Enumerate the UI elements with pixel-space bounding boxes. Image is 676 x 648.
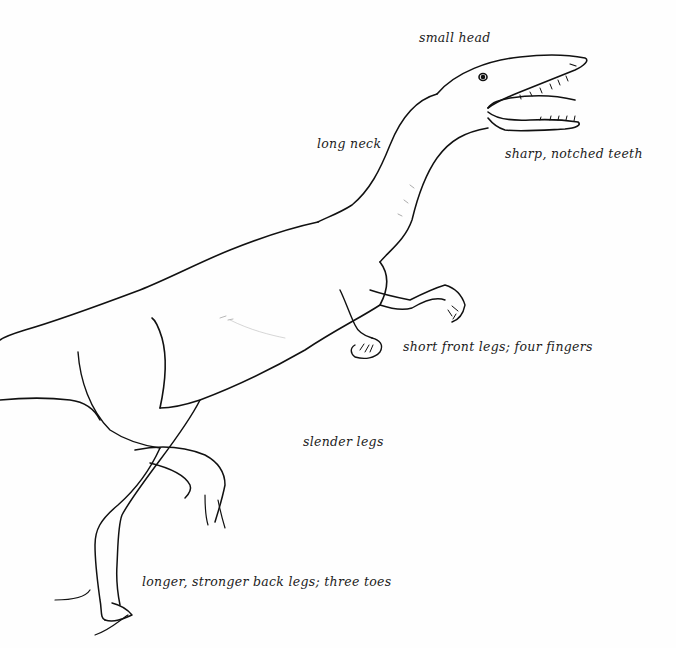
dinosaur-diagram: small head long neck sharp, notched teet… [0, 0, 676, 648]
label-small-head: small head [419, 30, 491, 45]
body-drawing [0, 222, 387, 448]
label-teeth: sharp, notched teeth [505, 146, 643, 161]
label-slender-legs: slender legs [303, 434, 384, 449]
label-long-neck: long neck [317, 136, 381, 151]
label-front-legs: short front legs; four fingers [403, 339, 593, 354]
neck-drawing [318, 94, 488, 262]
back-leg-drawing [55, 400, 225, 635]
label-back-legs: longer, stronger back legs; three toes [142, 574, 391, 589]
dinosaur-illustration [0, 0, 676, 648]
head-drawing [437, 55, 587, 131]
